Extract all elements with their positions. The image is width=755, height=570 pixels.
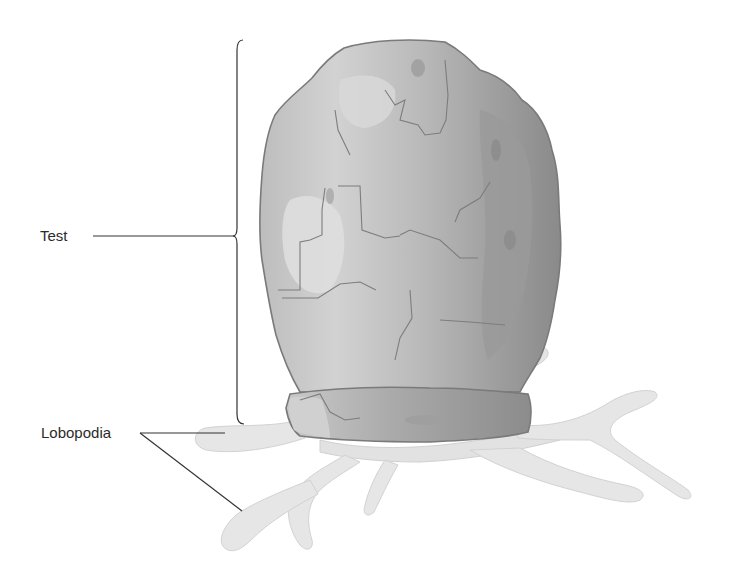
test-pore-3: [504, 230, 516, 250]
test-pore-2: [491, 139, 501, 161]
test-bracket: [233, 40, 244, 424]
test-label: Test: [40, 227, 68, 244]
test-pore-4: [326, 188, 334, 204]
lobopodium-middle: [364, 460, 398, 515]
test-shell: [260, 40, 561, 442]
test-collar-spot: [405, 415, 445, 425]
lobopodia-label: Lobopodia: [41, 424, 112, 441]
testate-amoeba-diagram: Test Lobopodia: [0, 0, 755, 570]
test-label-group: Test: [40, 40, 244, 424]
lobopodium-left-upper: [195, 420, 305, 452]
test-pore: [411, 59, 425, 77]
